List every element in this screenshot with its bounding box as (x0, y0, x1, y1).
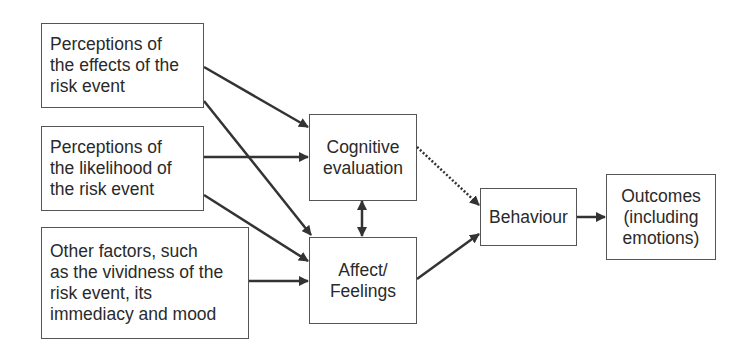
node-effects: Perceptions of the effects of the risk e… (41, 23, 204, 108)
node-outcomes: Outcomes (including emotions) (606, 174, 716, 260)
node-behaviour-label: Behaviour (489, 207, 568, 228)
edge-affect-to-behaviour (417, 234, 479, 279)
edge-effects-to-affect (204, 101, 311, 235)
node-other-factors: Other factors, such as the vividness of … (41, 227, 249, 339)
node-cognitive-evaluation-label: Cognitive evaluation (323, 137, 403, 179)
edge-cognitive-to-behaviour (417, 147, 479, 205)
node-likelihood: Perceptions of the likelihood of the ris… (41, 126, 204, 211)
node-effects-label: Perceptions of the effects of the risk e… (50, 34, 179, 97)
node-affect-feelings: Affect/ Feelings (309, 237, 417, 324)
node-cognitive-evaluation: Cognitive evaluation (309, 114, 417, 201)
edge-effects-to-cognitive (204, 67, 308, 127)
node-behaviour: Behaviour (480, 188, 577, 246)
node-affect-feelings-label: Affect/ Feelings (330, 260, 396, 302)
node-outcomes-label: Outcomes (including emotions) (621, 186, 701, 249)
node-likelihood-label: Perceptions of the likelihood of the ris… (50, 137, 172, 200)
node-other-factors-label: Other factors, such as the vividness of … (50, 241, 223, 325)
